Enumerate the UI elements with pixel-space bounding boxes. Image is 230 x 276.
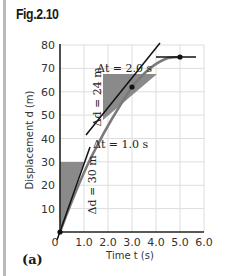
svg-text:30: 30	[41, 156, 55, 169]
svg-text:0: 0	[52, 236, 59, 249]
svg-text:70: 70	[41, 62, 55, 75]
svg-text:10: 10	[41, 203, 55, 216]
svg-text:2.0: 2.0	[99, 236, 117, 249]
upper-delta-d-label: Δd = 24 m	[91, 67, 104, 127]
x-tick-labels: 0 1.0 2.0 3.0 4.0 5.0 6.0	[52, 236, 213, 249]
panel-label: (a)	[22, 252, 43, 267]
svg-text:3.0: 3.0	[123, 236, 141, 249]
lower-delta-t-label: Δt = 1.0 s	[93, 138, 149, 151]
point-t0	[57, 229, 62, 234]
point-t3	[129, 84, 134, 89]
svg-text:5.0: 5.0	[171, 236, 189, 249]
svg-text:20: 20	[41, 179, 55, 192]
x-axis-label: Time t (s)	[105, 250, 154, 261]
svg-text:80: 80	[41, 39, 55, 52]
svg-text:1.0: 1.0	[75, 236, 93, 249]
lower-delta-d-label: Δd = 30 m	[86, 155, 99, 215]
svg-text:50: 50	[41, 109, 55, 122]
svg-text:60: 60	[41, 86, 55, 99]
svg-text:40: 40	[41, 133, 55, 146]
svg-text:6.0: 6.0	[195, 236, 213, 249]
point-t5	[177, 54, 182, 59]
upper-delta-t-label: Δt = 2.0 s	[97, 62, 153, 75]
displacement-time-chart: 80 70 60 50 40 30 20 10 0 1.0 2.0 3.0 4.…	[0, 0, 230, 276]
svg-text:4.0: 4.0	[147, 236, 165, 249]
y-axis-label: Displacement d (m)	[24, 90, 35, 189]
y-tick-labels: 80 70 60 50 40 30 20 10	[41, 39, 55, 216]
